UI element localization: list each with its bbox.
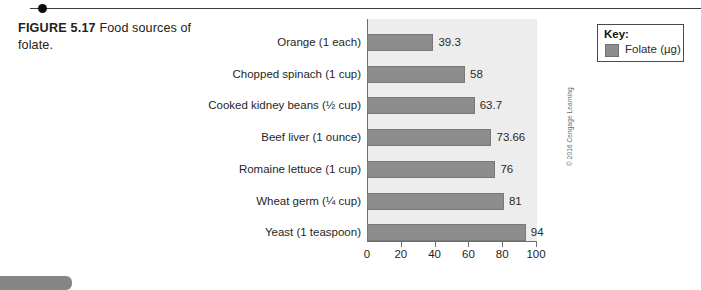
category-label: Romaine lettuce (1 cup): [151, 161, 361, 178]
page-corner-tab: [0, 276, 72, 290]
bar: [367, 193, 504, 210]
category-label: Cooked kidney beans (½ cup): [151, 97, 361, 114]
copyright-credit: © 2016 Cengage Learning: [566, 87, 573, 166]
bar-row: 94: [367, 224, 536, 241]
legend-box: Key: Folate (µg): [597, 24, 684, 62]
bar-value-label: 58: [470, 66, 483, 83]
bar-value-label: 94: [531, 224, 544, 241]
legend-label-folate: Folate (µg): [625, 43, 681, 55]
bar-row: 81: [367, 193, 536, 210]
bar-value-label: 73.66: [496, 129, 525, 146]
bar-value-label: 39.3: [438, 34, 460, 51]
bar-row: 73.66: [367, 129, 536, 146]
top-rule-divider: [30, 8, 701, 9]
bar: [367, 224, 526, 241]
x-axis-tick: [536, 241, 537, 247]
bar-row: 76: [367, 161, 536, 178]
legend-swatch-folate: [605, 44, 619, 57]
bar-value-label: 81: [509, 193, 522, 210]
category-label: Orange (1 each): [151, 34, 361, 51]
bar: [367, 129, 491, 146]
x-axis-tick: [502, 241, 503, 247]
bar-row: 63.7: [367, 97, 536, 114]
bar-row: 58: [367, 66, 536, 83]
category-label: Beef liver (1 ounce): [151, 129, 361, 146]
bar-value-label: 76: [500, 161, 513, 178]
x-axis-tick: [435, 241, 436, 247]
figure-number: FIGURE 5.17: [18, 21, 96, 35]
top-rule-dot: [38, 4, 47, 13]
x-axis-tick-label: 100: [516, 248, 556, 260]
category-label: Wheat germ (¼ cup): [151, 193, 361, 210]
x-axis-tick: [468, 241, 469, 247]
bar-row: 39.3: [367, 34, 536, 51]
bar: [367, 34, 433, 51]
bar: [367, 66, 465, 83]
category-label: Chopped spinach (1 cup): [151, 66, 361, 83]
bar: [367, 161, 495, 178]
category-label: Yeast (1 teaspoon): [151, 224, 361, 241]
bar: [367, 97, 475, 114]
bar-value-label: 63.7: [480, 97, 502, 114]
x-axis-tick: [401, 241, 402, 247]
legend-title: Key:: [604, 28, 629, 40]
